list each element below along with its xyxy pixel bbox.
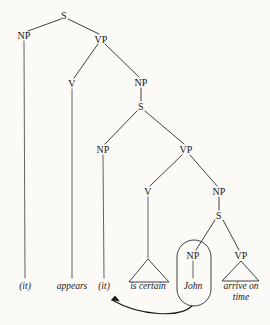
triangle-arrive-on-time <box>222 261 259 281</box>
branch-group-s-lower <box>196 220 239 250</box>
node-label-s-lower: S <box>216 210 222 221</box>
branch-s-to-vp-mid <box>145 111 184 144</box>
node-label-vp-mid: VP <box>179 144 192 155</box>
branch-vp-to-np-lower <box>190 155 217 186</box>
branch-group-top-s <box>28 19 99 34</box>
branch-np-expl-to-it <box>103 155 104 278</box>
node-label-np-clause: NP <box>134 77 147 88</box>
branch-group-vp-mid <box>150 155 217 186</box>
branch-group-vp-matrix <box>74 44 139 78</box>
leaf-appears: appears <box>57 281 88 291</box>
branch-s-to-np-subject <box>28 19 61 31</box>
movement-arrow-path <box>112 300 192 314</box>
leaf-time: time <box>233 292 249 302</box>
node-label-v-certain: V <box>144 186 152 197</box>
node-label-s-top: S <box>61 10 67 21</box>
branch-group-s-embedded <box>105 111 184 144</box>
leaf-it-expletive: (it) <box>98 281 110 292</box>
leaf-is-certain: is certain <box>130 281 166 291</box>
syntax-tree-diagram: S NP VP V NP S NP VP V NP S NP VP (it) a… <box>0 0 270 325</box>
node-label-np-lower: NP <box>212 186 225 197</box>
node-label-vp-lower: VP <box>234 250 247 261</box>
branch-np-subject-to-it <box>24 41 25 278</box>
node-label-np-john: NP <box>186 250 199 261</box>
node-label-np-subject: NP <box>17 30 30 41</box>
triangle-is-certain <box>129 259 169 282</box>
branch-s-to-vp-matrix <box>68 19 99 34</box>
node-label-np-expl: NP <box>96 144 109 155</box>
node-label-v-appears: V <box>68 78 76 89</box>
leaf-it-subject: (it) <box>19 281 31 292</box>
leaf-arrive-on: arrive on <box>223 281 258 291</box>
branch-s-to-np-john <box>196 220 215 250</box>
branch-vp-to-np-clause <box>105 44 139 77</box>
branch-vp-to-v-appears <box>74 44 98 78</box>
tree-canvas: S NP VP V NP S NP VP V NP S NP VP (it) a… <box>0 0 270 325</box>
branch-s-to-np-expl <box>105 111 137 144</box>
node-label-s-embedded: S <box>138 101 144 112</box>
node-label-vp-matrix: VP <box>94 34 107 45</box>
branch-vp-to-v-certain <box>150 155 182 186</box>
branch-s-to-vp-lower <box>223 220 239 250</box>
leaf-john: John <box>184 281 203 291</box>
